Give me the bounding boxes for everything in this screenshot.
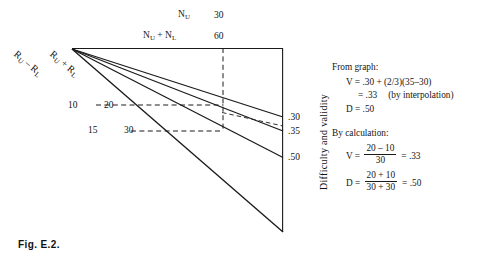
- denominator-value: 60: [214, 31, 224, 41]
- from-graph-eq-rhs: .33: [366, 90, 378, 100]
- calc-v-fraction: 20 – 1030: [364, 143, 396, 165]
- from-graph-v-lhs: V =: [346, 77, 362, 87]
- figure-canvas: NU 30 NU+NL 60 RU–RL RU+RL 10 20 15 30 .…: [0, 0, 490, 273]
- from-graph-line-2: = .33(by interpolation): [332, 90, 490, 102]
- from-graph-heading: From graph:: [332, 62, 490, 74]
- calc-v-lhs: V =: [346, 151, 362, 161]
- numerator-subscript: U: [185, 13, 190, 21]
- top-label-denominator: NU+NL: [143, 31, 176, 42]
- entry-number-upper-left: 10: [68, 100, 78, 110]
- calc-v-result: = .33: [398, 151, 420, 161]
- scale-tick-50: .50: [288, 152, 300, 162]
- calc-d-numerator: 20 + 10: [365, 170, 398, 182]
- calc-d-denominator: 30 + 30: [365, 182, 398, 193]
- from-graph-line-1: V = .30 + (2/3)(35–30): [332, 77, 490, 89]
- ray-line-35: [72, 49, 283, 131]
- by-calculation-heading: By calculation:: [332, 128, 490, 140]
- vertical-axis-label: Difficulty and validity: [318, 94, 329, 190]
- by-calculation-line-v: V = 20 – 1030= .33: [332, 143, 490, 165]
- numerator-value: 30: [214, 10, 224, 20]
- top-value-numerator: 30: [214, 10, 224, 20]
- scale-tick-30: .30: [288, 112, 300, 122]
- numerator-base: N: [178, 9, 185, 19]
- top-value-denominator: 60: [214, 31, 224, 41]
- entry-number-upper-right: 20: [104, 100, 114, 110]
- denominator-operator: +: [155, 30, 165, 40]
- denominator-base1: N: [143, 30, 150, 40]
- from-graph-v-rhs: .30 + (2/3)(35–30): [362, 77, 431, 87]
- from-graph-eq-lhs: =: [358, 90, 366, 100]
- calc-d-fraction: 20 + 1030 + 30: [365, 170, 398, 192]
- entry-number-lower-left: 15: [88, 125, 98, 135]
- figure-caption: Fig. E.2.: [18, 239, 60, 250]
- from-graph-note: (by interpolation): [377, 90, 453, 100]
- by-calculation-line-d: D = 20 + 1030 + 30= .50: [332, 170, 490, 192]
- calc-d-lhs: D =: [346, 178, 363, 188]
- calc-v-numerator: 20 – 10: [364, 143, 396, 155]
- calc-v-denominator: 30: [364, 155, 396, 166]
- ray-line-lowest: [72, 49, 283, 232]
- denominator-base2: N: [165, 30, 172, 40]
- worked-solution-block: From graph: V = .30 + (2/3)(35–30) = .33…: [332, 62, 490, 195]
- entry-number-lower-right: 30: [124, 125, 134, 135]
- denominator-subscript2: L: [172, 34, 176, 42]
- scale-tick-35: .35: [288, 126, 300, 136]
- top-label-numerator: NU: [178, 10, 190, 21]
- calc-d-result: = .50: [399, 178, 421, 188]
- solution-spacer: [332, 117, 490, 128]
- from-graph-line-3: D = .50: [332, 104, 490, 116]
